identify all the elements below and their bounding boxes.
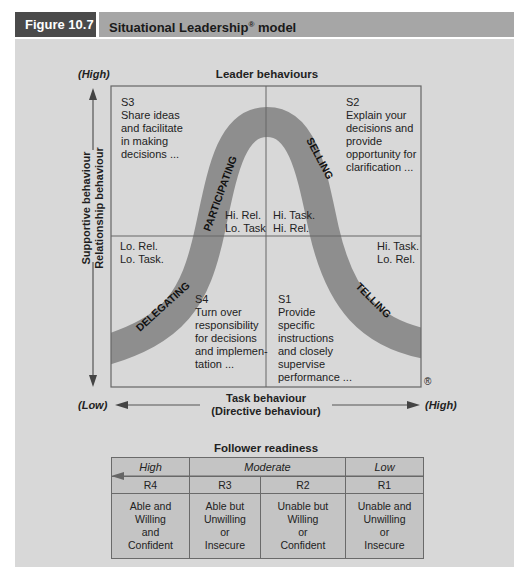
follower-readiness-table: High Moderate Low R4 R3 R2 R1 Able and W…: [111, 457, 424, 559]
quadrant-line: and closely: [278, 345, 352, 358]
quadrant-s4: S4 Turn over responsibility for decision…: [195, 293, 268, 371]
quadrant-s3: S3 Share ideas and facilitate in making …: [121, 96, 183, 161]
x-axis-label-line2: (Directive behaviour): [200, 405, 332, 418]
quadrant-line: and implemen-: [195, 345, 268, 358]
desc-line: Insecure: [190, 539, 260, 552]
quadrant-line: instructions: [278, 332, 352, 345]
quadrant-line: specific: [278, 319, 352, 332]
y-axis-label-line2: Relationship behaviour: [93, 147, 106, 269]
quadrant-code: S4: [195, 293, 268, 306]
s2-tags: Hi. Task. Hi. Rel.: [273, 209, 315, 235]
quadrant-line: responsibility: [195, 319, 268, 332]
desc-line: or: [190, 526, 260, 539]
arrow-right-icon: [407, 401, 420, 409]
desc-line: Willing: [261, 513, 345, 526]
quadrant-line: performance ...: [278, 371, 352, 384]
quadrant-line: Provide: [278, 306, 352, 319]
y-axis-label: Supportive behaviour Relationship behavi…: [80, 147, 106, 269]
s3-tags: Hi. Rel. Lo. Task: [225, 209, 266, 235]
level-moderate: Moderate: [190, 458, 346, 477]
quadrant-line: Share ideas: [121, 109, 183, 122]
quadrant-line: Explain your: [346, 109, 416, 122]
quadrant-line: in making: [121, 135, 183, 148]
arrow-up-icon: [89, 88, 97, 100]
readiness-level-row: High Moderate Low: [112, 458, 424, 477]
desc-line: Confident: [261, 539, 345, 552]
tag-line: Hi. Task.: [377, 240, 415, 253]
level-low: Low: [346, 458, 424, 477]
desc-line: and: [112, 526, 189, 539]
code-r4: R4: [112, 477, 190, 494]
quadrant-line: tation ...: [195, 358, 268, 371]
quadrant-line: supervise: [278, 358, 352, 371]
quadrant-line: opportunity for: [346, 148, 416, 161]
tag-line: Lo. Task.: [120, 253, 164, 266]
quadrant-line: provide: [346, 135, 416, 148]
s1-tags: Hi. Task. Lo. Rel.: [377, 240, 415, 266]
code-r1: R1: [346, 477, 424, 494]
quadrant-code: S2: [346, 96, 416, 109]
code-r2: R2: [260, 477, 345, 494]
arrow-down-icon: [89, 375, 97, 387]
quadrant-s1: S1 Provide specific instructions and clo…: [278, 293, 352, 384]
desc-r3: Able but Unwilling or Insecure: [190, 494, 261, 559]
tag-line: Hi. Task.: [273, 209, 315, 222]
tag-line: Lo. Task: [225, 222, 266, 235]
quadrant-line: for decisions: [195, 332, 268, 345]
desc-line: Unable and: [346, 500, 423, 513]
follower-readiness-title: Follower readiness: [200, 442, 332, 455]
quadrant-code: S1: [278, 293, 352, 306]
readiness-description-row: Able and Willing and Confident Able but …: [112, 494, 424, 559]
s4-tags: Lo. Rel. Lo. Task.: [120, 240, 164, 266]
desc-line: or: [261, 526, 345, 539]
x-axis-label: Task behaviour (Directive behaviour): [200, 392, 332, 418]
x-axis-label-line1: Task behaviour: [200, 392, 332, 405]
desc-r4: Able and Willing and Confident: [112, 494, 190, 559]
arrow-left-icon: [115, 401, 128, 409]
quadrant-s2: S2 Explain your decisions and provide op…: [346, 96, 416, 174]
quadrant-line: clarification ...: [346, 161, 416, 174]
level-high: High: [112, 458, 190, 477]
quadrant-code: S3: [121, 96, 183, 109]
tag-line: Lo. Rel.: [377, 253, 415, 266]
quadrant-line: Turn over: [195, 306, 268, 319]
quadrant-line: decisions ...: [121, 148, 183, 161]
x-axis-low-label: (Low): [78, 399, 107, 412]
desc-line: Insecure: [346, 539, 423, 552]
desc-line: or: [346, 526, 423, 539]
desc-r1: Unable and Unwilling or Insecure: [346, 494, 424, 559]
desc-line: Able and: [112, 500, 189, 513]
y-axis-high-label: (High): [78, 68, 110, 81]
tag-line: Hi. Rel.: [273, 222, 315, 235]
desc-line: Willing: [112, 513, 189, 526]
desc-r2: Unable but Willing or Confident: [260, 494, 345, 559]
desc-line: Unwilling: [346, 513, 423, 526]
leader-behaviours-label: Leader behaviours: [204, 68, 330, 81]
code-r3: R3: [190, 477, 261, 494]
desc-line: Unable but: [261, 500, 345, 513]
tag-line: Lo. Rel.: [120, 240, 164, 253]
tag-line: Hi. Rel.: [225, 209, 266, 222]
desc-line: Confident: [112, 539, 189, 552]
desc-line: Unwilling: [190, 513, 260, 526]
desc-line: Able but: [190, 500, 260, 513]
x-axis-high-label: (High): [425, 399, 457, 412]
quadrant-line: and facilitate: [121, 122, 183, 135]
quadrant-line: decisions and: [346, 122, 416, 135]
readiness-code-row: R4 R3 R2 R1: [112, 477, 424, 494]
y-axis-label-line1: Supportive behaviour: [80, 147, 93, 269]
registered-mark: ®: [424, 375, 431, 388]
